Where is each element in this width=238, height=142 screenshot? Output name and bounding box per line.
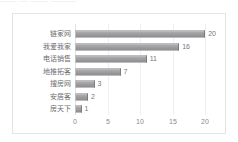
- category-label: 安居客: [23, 91, 71, 103]
- bar-row: 我爱我家16: [13, 41, 227, 53]
- bar: [75, 43, 179, 51]
- cropped-header-strip: —— — —— ———: [0, 0, 238, 9]
- x-axis-tick-label: 15: [162, 118, 184, 125]
- bar-value-label: 11: [150, 53, 157, 65]
- bar: [75, 55, 147, 63]
- bar: [75, 68, 121, 76]
- category-label: 电话销售: [23, 53, 71, 65]
- bar: [75, 80, 95, 88]
- bar-value-label: 1: [85, 103, 89, 115]
- bar-row: 房天下1: [13, 103, 227, 115]
- bar-chart-plot-area: 链家网20我爱我家16电话销售11地推拓客7搜房网3安居客2房天下1051015…: [13, 14, 227, 135]
- category-label: 我爱我家: [23, 41, 71, 53]
- bar-value-label: 3: [98, 78, 102, 90]
- bar-row: 地推拓客7: [13, 66, 227, 78]
- chart-card: 链家网20我爱我家16电话销售11地推拓客7搜房网3安居客2房天下1051015…: [12, 13, 226, 134]
- category-label: 地推拓客: [23, 66, 71, 78]
- header-text-fragment: —— — —— ———: [0, 0, 76, 5]
- bar-value-label: 7: [124, 66, 128, 78]
- bar-row: 电话销售11: [13, 53, 227, 65]
- bar-value-label: 2: [91, 91, 95, 103]
- category-label: 链家网: [23, 28, 71, 40]
- bar-row: 链家网20: [13, 28, 227, 40]
- x-axis-tick-label: 5: [97, 118, 119, 125]
- bar: [75, 30, 205, 38]
- x-axis-tick-label: 20: [194, 118, 216, 125]
- bar: [75, 105, 82, 113]
- bar-row: 搜房网3: [13, 78, 227, 90]
- bar: [75, 93, 88, 101]
- category-label: 搜房网: [23, 78, 71, 90]
- x-axis-tick-label: 10: [129, 118, 151, 125]
- bar-value-label: 20: [208, 28, 216, 40]
- bar-row: 安居客2: [13, 91, 227, 103]
- x-axis-tick-label: 0: [64, 118, 86, 125]
- bar-value-label: 16: [182, 41, 190, 53]
- category-label: 房天下: [23, 103, 71, 115]
